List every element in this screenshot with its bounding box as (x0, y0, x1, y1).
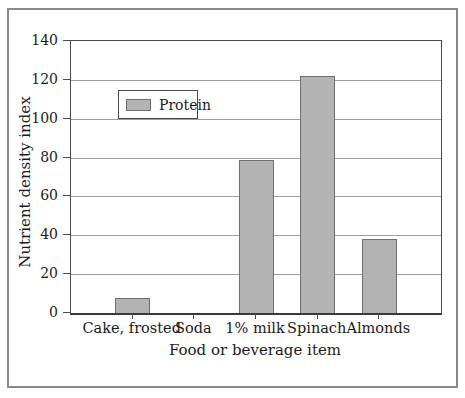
x-tick-mark-2 (193, 314, 194, 319)
figure: Nutrient density index Protein 020406080… (0, 0, 465, 398)
x-tick-mark-5 (378, 314, 379, 319)
legend-swatch-protein (126, 99, 151, 111)
y-tick-label-60: 60 (0, 187, 58, 203)
y-tick-label-100: 100 (0, 110, 58, 126)
y-tick-mark-20 (63, 273, 70, 274)
y-tick-mark-80 (63, 157, 70, 158)
x-tick-mark-3 (255, 314, 256, 319)
bar-almonds (362, 239, 397, 313)
bar-spinach (300, 76, 335, 313)
y-tick-mark-60 (63, 195, 70, 196)
y-tick-label-140: 140 (0, 32, 58, 48)
x-axis-title: Food or beverage item (70, 341, 440, 359)
y-tick-mark-120 (63, 79, 70, 80)
legend: Protein (118, 90, 198, 119)
legend-label-protein: Protein (159, 98, 211, 112)
x-tick-label-5: Almonds (318, 320, 438, 337)
y-tick-mark-0 (63, 312, 70, 313)
y-tick-label-80: 80 (0, 149, 58, 165)
x-tick-mark-1 (132, 314, 133, 319)
gridline-120 (71, 80, 441, 81)
bar-1-milk (239, 160, 274, 314)
y-tick-label-20: 20 (0, 265, 58, 281)
y-tick-label-120: 120 (0, 71, 58, 87)
y-tick-mark-100 (63, 118, 70, 119)
y-tick-mark-40 (63, 234, 70, 235)
y-tick-label-40: 40 (0, 226, 58, 242)
y-tick-label-0: 0 (0, 304, 58, 320)
y-tick-mark-140 (63, 40, 70, 41)
bar-cake-frosted (115, 298, 150, 314)
x-tick-mark-4 (317, 314, 318, 319)
plot-area: Protein (70, 40, 442, 315)
gridline-80 (71, 158, 441, 159)
